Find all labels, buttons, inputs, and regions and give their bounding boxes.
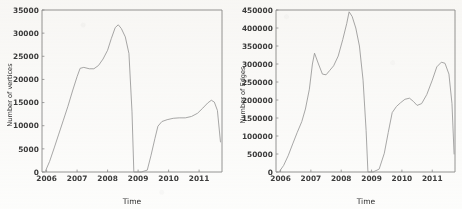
vertices-xlabel: Time <box>122 197 142 206</box>
y-tick-label: 15000 <box>13 98 39 107</box>
x-tick-label: 2007 <box>67 174 88 183</box>
edges-series-line <box>279 12 454 172</box>
edges-xlabel: Time <box>356 197 376 206</box>
vertices-axis-frame <box>42 10 222 172</box>
y-tick-label: 35000 <box>13 6 39 15</box>
x-tick-label: 2010 <box>158 174 179 183</box>
y-tick-label: 20000 <box>13 75 39 84</box>
vertices-ylabel: Number of vertices <box>6 63 14 127</box>
vertices-series-line <box>45 25 220 172</box>
y-tick-label: 30000 <box>13 29 39 38</box>
y-tick-label: 450000 <box>242 6 273 15</box>
y-tick-label: 5000 <box>18 145 39 154</box>
chart-panel-vertices: 05000100001500020000250003000035000 2006… <box>0 0 231 209</box>
y-tick-label: 350000 <box>242 42 273 51</box>
y-tick-label: 10000 <box>13 121 39 130</box>
x-tick-label: 2006 <box>36 174 57 183</box>
x-tick-label: 2009 <box>128 174 149 183</box>
y-tick-label: 50000 <box>247 150 273 159</box>
y-tick-label: 400000 <box>242 24 273 33</box>
x-tick-label: 2011 <box>189 174 210 183</box>
x-tick-label: 2009 <box>361 174 382 183</box>
vertices-plot-svg: 05000100001500020000250003000035000 2006… <box>0 0 231 209</box>
edges-y-ticks: 0500001000001500002000002500003000003500… <box>242 6 278 177</box>
edges-plot-svg: 0500001000001500002000002500003000003500… <box>231 0 462 209</box>
x-tick-label: 2007 <box>301 174 322 183</box>
y-tick-label: 100000 <box>242 132 273 141</box>
x-tick-label: 2010 <box>392 174 413 183</box>
x-tick-label: 2006 <box>270 174 291 183</box>
x-tick-label: 2008 <box>331 174 352 183</box>
y-tick-label: 25000 <box>13 52 39 61</box>
edges-ylabel: Number of Edges <box>239 66 247 124</box>
vertices-y-ticks: 05000100001500020000250003000035000 <box>13 6 44 177</box>
x-tick-label: 2011 <box>422 174 443 183</box>
figure-container: 05000100001500020000250003000035000 2006… <box>0 0 462 209</box>
vertices-axes <box>42 10 222 172</box>
x-tick-label: 2008 <box>97 174 118 183</box>
chart-panel-edges: 0500001000001500002000002500003000003500… <box>231 0 462 209</box>
